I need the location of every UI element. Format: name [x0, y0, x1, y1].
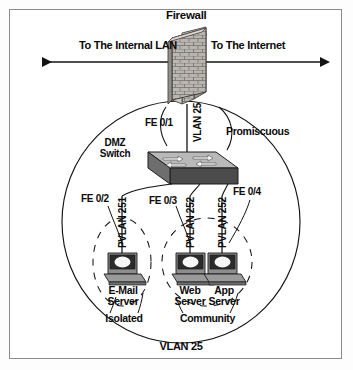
outer-zone-label: VLAN 25 — [151, 341, 211, 352]
switch-port-stub-2 — [190, 184, 200, 196]
server-computer-icon-3 — [204, 253, 246, 285]
port-label-fe-0-3: FE 0/3 — [149, 196, 177, 206]
pvlan-label-2: PVLAN 252 — [186, 197, 196, 248]
switch-port-stub-3 — [222, 184, 228, 196]
port-label-fe-0-1: FE 0/1 — [145, 118, 173, 128]
server-name-3-line2: Server — [201, 296, 247, 307]
server-name-1-line2: Server — [97, 296, 149, 307]
promiscuous-label: Promiscuous — [226, 126, 289, 137]
zone-label-isolated: Isolated — [99, 313, 149, 324]
page-title: Firewall — [166, 10, 206, 22]
dmz-switch-icon — [148, 152, 238, 184]
fe04-leader — [229, 200, 250, 243]
switch-label-line2: Switch — [95, 149, 135, 159]
network-diagram-figure: Firewall To The Internal LAN To The Inte… — [0, 0, 353, 370]
uplink-vlan-label: VLAN 25 — [193, 103, 203, 142]
switch-label-line1: DMZ — [95, 138, 135, 148]
pvlan-label-1: PVLAN 251 — [118, 197, 128, 248]
flow-label-internet: To The Internet — [211, 40, 285, 51]
flow-label-internal-lan: To The Internal LAN — [79, 40, 177, 51]
port-label-fe-0-2: FE 0/2 — [81, 194, 109, 204]
pvlan-label-3: PVLAN 252 — [218, 197, 228, 248]
server-computer-icon-1 — [104, 253, 146, 285]
zone-label-community: Community — [175, 313, 240, 324]
port-label-fe-0-4: FE 0/4 — [233, 187, 261, 197]
